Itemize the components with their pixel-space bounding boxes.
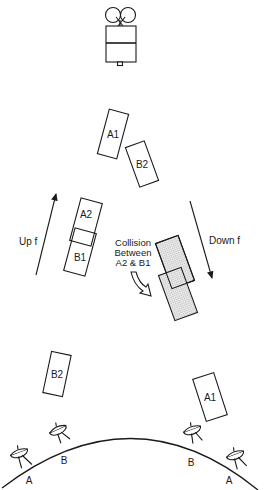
collision-note: Collision Between A2 & B1 (115, 237, 152, 268)
svg-text:B: B (188, 457, 195, 468)
uplink-arrow (36, 194, 56, 275)
satellite-icon (106, 8, 137, 66)
svg-text:A: A (226, 475, 233, 486)
uplink-label: Up f (19, 236, 38, 247)
svg-text:A2: A2 (80, 209, 93, 220)
carrier-a1-ground: A1 (193, 373, 228, 422)
downlink-label: Down f (209, 235, 240, 246)
curved-arrow-icon (131, 272, 151, 296)
svg-text:A1: A1 (204, 392, 217, 403)
svg-text:B: B (61, 455, 68, 466)
earth-station-b-left: B (47, 419, 72, 466)
carrier-b2-top: B2 (125, 141, 158, 187)
collision-diagram: A1 B2 Up f A2 B1 Collision Between A2 & … (0, 0, 266, 490)
carrier-b1-uplink: B1 (64, 228, 97, 276)
svg-text:A: A (26, 475, 33, 486)
earth-station-b-right: B (181, 420, 205, 468)
svg-text:B2: B2 (51, 369, 64, 380)
svg-text:A2 & B1: A2 & B1 (116, 257, 151, 268)
earth-station-a-left: A (8, 443, 33, 486)
svg-text:B1: B1 (74, 252, 87, 263)
carrier-a1-top: A1 (97, 109, 128, 159)
carrier-a2-uplink: A2 (70, 198, 103, 246)
svg-text:A1: A1 (107, 129, 120, 140)
carrier-b2-ground: B2 (43, 351, 71, 396)
earth-surface (2, 438, 258, 490)
svg-text:B2: B2 (136, 159, 149, 170)
